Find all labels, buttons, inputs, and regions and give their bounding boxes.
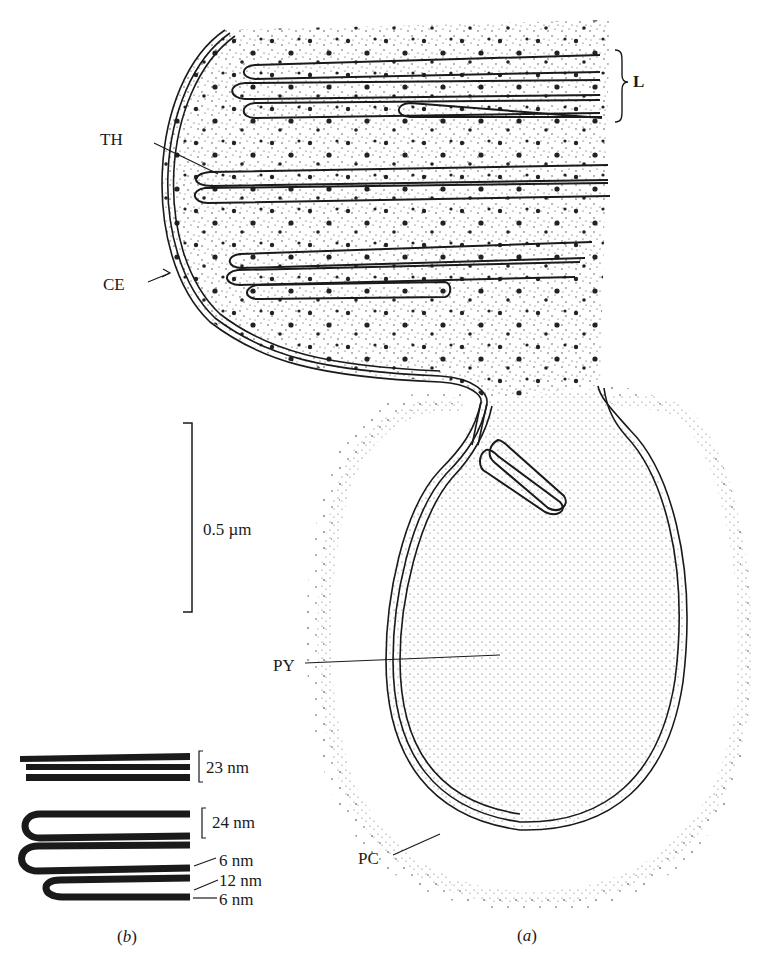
pc-leader-line xyxy=(393,834,440,855)
label-6nm-top: 6 nm xyxy=(219,852,253,869)
label-6nm-bottom: 6 nm xyxy=(219,891,253,908)
scale-bar xyxy=(183,423,192,612)
label-12nm: 12 nm xyxy=(219,872,262,889)
label-pyrenoid: PY xyxy=(273,657,295,674)
caption-part-a: (a) xyxy=(517,927,537,944)
label-thylakoid: TH xyxy=(100,131,123,148)
label-23nm: 23 nm xyxy=(206,759,249,776)
label-chloroplast-envelope: CE xyxy=(103,276,125,293)
part-b-schematic xyxy=(20,753,190,781)
caption-part-b: (b) xyxy=(117,928,137,945)
pyrenoid xyxy=(385,388,684,828)
scale-bar-label: 0.5 µm xyxy=(203,521,252,538)
label-lamellae: L xyxy=(633,73,644,90)
ce-arrow-icon xyxy=(162,269,170,277)
part-b-folded-thylakoids xyxy=(22,814,191,897)
l-brace-icon xyxy=(615,50,628,122)
label-24nm: 24 nm xyxy=(212,814,255,831)
label-pyrenoid-cap: PC xyxy=(358,850,379,867)
chloroplast-diagram: L TH CE PY PC 0.5 µm (a) 23 nm 24 nm 6 n… xyxy=(0,0,762,953)
